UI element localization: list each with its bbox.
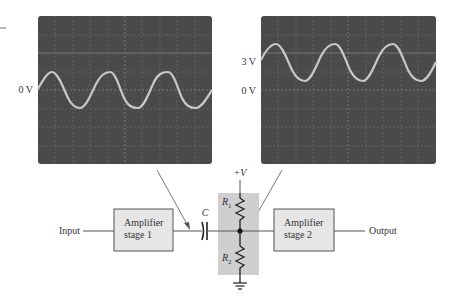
ground-icon [233,283,247,289]
right-oscilloscope-screen [261,16,436,164]
left-zero-volt-label: 0 V [18,84,33,95]
input-label: Input [59,225,80,236]
capacitor-label: C [202,207,209,218]
stage1-label-line2: stage 1 [124,229,152,240]
right-zero-volt-label: 0 V [241,85,256,96]
coupling-capacitor [202,222,207,240]
stage2-label-line2: stage 2 [284,229,312,240]
left-oscilloscope-screen [38,16,212,164]
stage1-label-line1: Amplifier [124,217,164,228]
amplifier-stage-2-block: Amplifier stage 2 [274,209,334,251]
supply-voltage-label: +V [234,167,249,178]
amplifier-stage-1-block: Amplifier stage 1 [114,209,173,251]
stage2-label-line1: Amplifier [284,217,324,228]
output-label: Output [369,225,397,236]
coupling-diagram: 0 V 3 V 0 V [0,0,456,306]
right-offset-volt-label: 3 V [241,56,256,67]
